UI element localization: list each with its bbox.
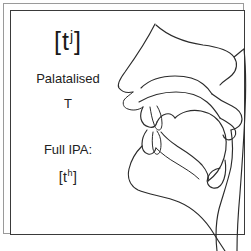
floor-of-mouth: [156, 148, 199, 179]
tongue-body-raised: [175, 110, 226, 181]
lower-teeth: [152, 131, 161, 154]
description-line-t: T: [20, 96, 116, 111]
ipa-short-transcription: [tj]: [20, 29, 116, 54]
sagittal-head-diagram: [107, 18, 251, 251]
outer-frame: [tj] Palatalised T Full IPA: [th]: [3, 3, 244, 234]
jaw-and-chin-profile: [128, 146, 225, 251]
ipa-short-close-bracket: ]: [74, 27, 82, 55]
full-ipa-heading: Full IPA:: [20, 142, 116, 157]
ipa-short-open-bracket: [: [54, 27, 62, 55]
inner-frame: [tj] Palatalised T Full IPA: [th]: [10, 10, 245, 235]
ipa-full-close-bracket: ]: [73, 169, 77, 185]
tongue-root: [161, 132, 208, 181]
label-column: [tj] Palatalised T Full IPA: [th]: [20, 21, 116, 211]
ipa-short-base-symbol: t: [62, 27, 70, 55]
rear-head-contour: [234, 49, 244, 57]
pharyngeal-wall: [216, 130, 233, 251]
epiglottis: [207, 160, 225, 188]
tongue-tip-at-alveolar-ridge: [157, 114, 175, 122]
ipa-full-transcription: [th]: [20, 169, 116, 185]
description-line-palatalised: Palatalised: [20, 71, 116, 86]
neck-back-profile: [237, 49, 246, 251]
nasal-cavity-floor: [141, 76, 212, 94]
